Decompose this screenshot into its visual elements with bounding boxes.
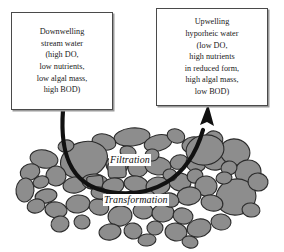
callout-line: low BOD) xyxy=(195,86,229,98)
callout-line: low nutrients, xyxy=(39,61,84,73)
hyporheic-exchange-figure: Downwelling stream water (high DO, low n… xyxy=(0,0,284,252)
label-transformation: Transformation xyxy=(103,194,169,206)
callout-line: Upwelling xyxy=(195,16,230,28)
callout-line: stream water xyxy=(41,38,83,50)
callout-line: (high DO, xyxy=(45,49,78,61)
callout-line: hyporheic water xyxy=(186,28,239,40)
callout-line: high BOD) xyxy=(44,84,81,96)
callout-line: low algal mass, xyxy=(37,73,88,85)
callout-downwelling-stream-water: Downwelling stream water (high DO, low n… xyxy=(11,12,113,110)
label-filtration: Filtration xyxy=(109,154,151,166)
callout-upwelling-hyporheic-water: Upwelling hyporheic water (low DO, high … xyxy=(156,8,268,106)
callout-line: high algal mass, xyxy=(186,74,239,86)
callout-line: high nutrients xyxy=(189,51,234,63)
callout-line: (low DO, xyxy=(197,40,228,52)
callout-line: Downwelling xyxy=(40,26,85,38)
callout-line: in reduced form, xyxy=(185,63,239,75)
